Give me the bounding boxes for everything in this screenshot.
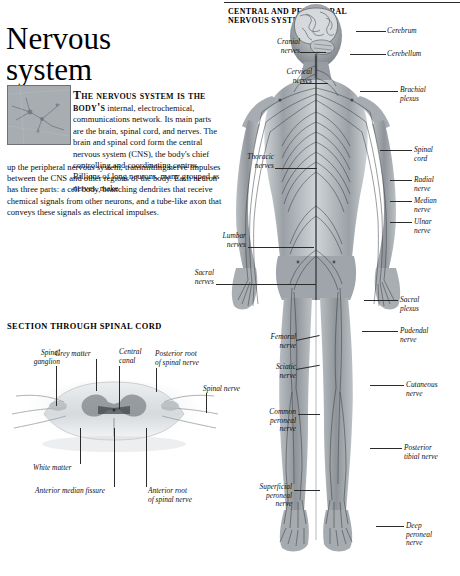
label-cranial-nerves: Cranial nerves (258, 38, 300, 55)
label-common-peroneal-nerve: Common peroneal nerve (246, 408, 296, 434)
label-ulnar-nerve: Ulnar nerve (414, 218, 458, 235)
page-title-line1: Nervous (6, 21, 111, 56)
label-grey-matter: Grey matter (55, 350, 115, 359)
label-anterior-root-spinal-nerve: Anterior root of spinal nerve (148, 487, 220, 504)
label-deep-peroneal-nerve: Deep peroneal nerve (406, 522, 456, 548)
page-title-line2: system (6, 54, 221, 85)
leader-pudendal-nerve (362, 331, 398, 332)
leader-superficial-peroneal-nerve (294, 490, 320, 491)
leader-thoracic-nerves (275, 168, 317, 169)
leader-common-peroneal-nerve (298, 414, 320, 415)
leader-brachial-plexus (360, 91, 398, 92)
label-white-matter: White matter (33, 464, 93, 473)
body-paragraph: up the peripheral nervous system, transm… (7, 162, 223, 219)
label-cutaneous-nerve: Cutaneous nerve (406, 381, 458, 398)
section-heading: SECTION THROUGH SPINAL CORD (7, 322, 162, 331)
label-brachial-plexus: Brachial plexus (400, 86, 452, 103)
leader-white-matter (80, 428, 81, 464)
neuron-micrograph-thumbnail (7, 85, 71, 145)
leader-anterior-root (146, 428, 147, 487)
leader-grey-matter (96, 359, 97, 391)
label-radial-nerve: Radial nerve (414, 176, 458, 193)
page-title: Nervous system (6, 23, 221, 85)
leader-sacral-nerves (216, 284, 316, 285)
label-cerebrum: Cerebrum (387, 27, 447, 36)
label-sacral-plexus: Sacral plexus (400, 296, 452, 313)
label-spinal-cord: Spinal cord (414, 146, 458, 163)
label-sacral-nerves: Sacral nerves (170, 269, 214, 286)
label-posterior-root-spinal-nerve: Posterior root of spinal nerve (155, 350, 229, 367)
leader-lumbar-nerves (248, 247, 314, 248)
leader-cranial-nerves (300, 52, 326, 53)
leader-posterior-root (156, 368, 157, 392)
leader-cerebellum (350, 54, 386, 55)
label-cerebellum: Cerebellum (387, 50, 447, 59)
leader-sacral-plexus (364, 300, 398, 301)
leader-cerebrum (356, 31, 386, 32)
leader-cervical-nerves (300, 83, 328, 84)
label-posterior-tibial-nerve: Posterior tibial nerve (404, 444, 458, 461)
leader-radial-nerve (390, 180, 412, 181)
leader-ulnar-nerve (390, 222, 412, 223)
label-median-nerve: Median nerve (414, 197, 458, 214)
leader-posterior-tibial-nerve (370, 448, 402, 449)
leader-cutaneous-nerve (370, 385, 404, 386)
label-pudendal-nerve: Pudendal nerve (400, 327, 452, 344)
leader-central-canal (119, 366, 120, 409)
leader-median-nerve (390, 201, 412, 202)
nervous-system-page: Nervous system The nerv (0, 0, 460, 576)
leader-spinal-nerve (206, 393, 207, 413)
label-spinal-ganglion: Spinal ganglion (8, 349, 60, 366)
label-superficial-peroneal-nerve: Superficial peroneal nerve (238, 483, 292, 509)
leader-spinal-cord (380, 150, 412, 151)
label-lumbar-nerves: Lumbar nerves (202, 232, 246, 249)
label-thoracic-nerves: Thoracic nerves (228, 153, 274, 170)
leader-deep-peroneal-nerve (376, 526, 404, 527)
leader-anterior-median-fissure (114, 428, 115, 487)
label-sciatic-nerve: Sciatic nerve (252, 363, 296, 380)
label-anterior-median-fissure: Anterior median fissure (35, 487, 143, 496)
leader-spinal-ganglion (56, 366, 57, 406)
label-femoral-nerve: Femoral nerve (248, 333, 296, 350)
